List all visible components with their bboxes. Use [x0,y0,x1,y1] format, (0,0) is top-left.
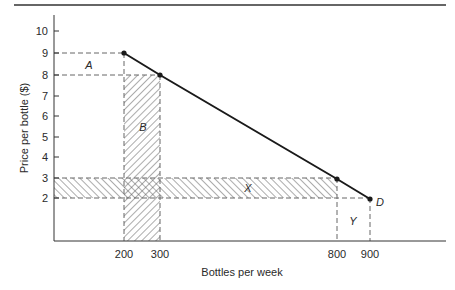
x-tick-800: 800 [328,248,346,260]
y-tick-6: 6 [42,110,48,122]
dashed-guides [54,53,370,241]
y-tick-5: 5 [42,131,48,143]
demand-curve-label: D [376,196,384,208]
y-ticks [54,31,59,198]
region-b-fill [124,75,160,241]
y-tick-8: 8 [42,69,48,81]
y-tick-9: 9 [42,47,48,59]
x-axis-title: Bottles per week [201,266,283,278]
demand-chart: 10 9 8 7 6 5 4 3 2 200 300 800 900 Bottl… [0,0,455,290]
region-y-label: Y [349,215,357,227]
region-x-label: X [243,182,252,194]
region-x-fill [54,178,337,198]
x-tick-900: 900 [361,248,379,260]
y-axis-title: Price per bottle ($) [18,83,30,173]
y-tick-3: 3 [42,172,48,184]
y-tick-2: 2 [42,192,48,204]
x-tick-200: 200 [115,248,133,260]
x-tick-300: 300 [151,248,169,260]
y-tick-4: 4 [42,151,48,163]
region-b-label: B [139,121,146,133]
y-tick-7: 7 [42,90,48,102]
y-tick-10: 10 [36,25,48,37]
region-a-label: A [84,59,92,71]
